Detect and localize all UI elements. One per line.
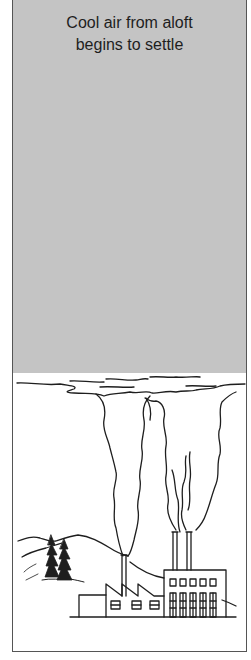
trapped-smoke-layer	[17, 377, 245, 396]
inversion-illustration	[0, 0, 251, 660]
smoke-plume-left	[96, 394, 151, 556]
smoke-plume-right	[181, 392, 236, 530]
pine-trees	[42, 535, 84, 582]
